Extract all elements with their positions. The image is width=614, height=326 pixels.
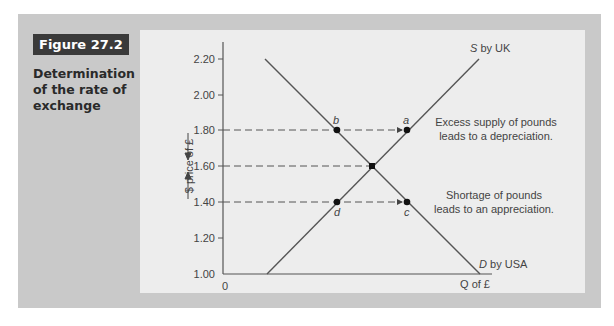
label-b: b <box>333 114 339 126</box>
svg-text:leads to an appreciation.: leads to an appreciation. <box>434 203 554 215</box>
arrowhead-c <box>397 199 403 205</box>
point-a <box>404 127 411 134</box>
svg-text:1.60: 1.60 <box>194 160 215 172</box>
y-ticks <box>218 59 223 238</box>
svg-text:Shortage of pounds: Shortage of pounds <box>446 189 543 201</box>
svg-text:1.40: 1.40 <box>194 196 215 208</box>
annotation-shortage: Shortage of pounds leads to an appreciat… <box>434 189 554 215</box>
point-c <box>404 199 411 206</box>
dashed-guides <box>223 130 402 202</box>
demand-label: D by USA <box>479 258 528 270</box>
x-axis-label: Q of £ <box>460 278 490 290</box>
svg-text:leads to a depreciation.: leads to a depreciation. <box>439 130 553 142</box>
svg-text:Excess supply of pounds: Excess supply of pounds <box>435 116 557 128</box>
annotation-excess-supply: Excess supply of pounds leads to a depre… <box>435 116 557 142</box>
svg-text:2.20: 2.20 <box>194 53 215 65</box>
supply-label: S by UK <box>470 42 511 54</box>
svg-text:1.00: 1.00 <box>194 268 215 280</box>
label-d: d <box>334 206 341 218</box>
svg-text:2.00: 2.00 <box>194 89 215 101</box>
point-b <box>334 127 341 134</box>
y-tick-labels: 2.20 2.00 1.80 1.60 1.40 1.20 1.00 <box>194 53 215 280</box>
svg-text:1.20: 1.20 <box>194 232 215 244</box>
label-a: a <box>403 114 409 126</box>
arrowhead-a <box>397 127 403 133</box>
equilibrium-point <box>369 163 375 169</box>
x-origin-label: 0 <box>222 280 228 292</box>
chart-svg: 2.20 2.00 1.80 1.60 1.40 1.20 1.00 0 Q o… <box>0 0 614 326</box>
svg-text:1.80: 1.80 <box>194 124 215 136</box>
y-axis-label: $ price of £ <box>183 139 195 193</box>
point-d <box>334 199 341 206</box>
label-c: c <box>404 206 410 218</box>
